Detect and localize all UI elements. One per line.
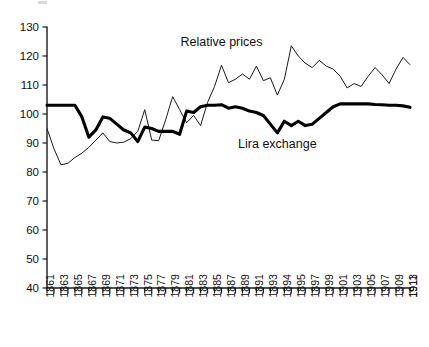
x-tick-label: 1907 [379, 274, 391, 298]
x-tick-label: 1913 [407, 274, 419, 298]
x-tick-label: 1863 [58, 274, 70, 298]
y-tick-label: 40 [26, 282, 39, 294]
x-tick-label: 1885 [211, 274, 223, 298]
line-chart: 405060708090100110120130 186118631865186… [0, 0, 429, 347]
y-tick-label: 110 [21, 79, 39, 91]
x-tick-label: 1894 [281, 274, 293, 298]
x-tick-label: 1889 [239, 274, 251, 298]
annotation-lira-exchange: Lira exchange [238, 137, 317, 151]
x-tick-label: 1893 [267, 274, 279, 298]
annotation-relative-prices: Relative prices [181, 35, 263, 49]
x-tick-label: 1887 [225, 274, 237, 298]
x-tick-label: 1999 [323, 274, 335, 298]
x-tick-label: 1897 [309, 274, 321, 298]
x-tick-label: 1909 [393, 274, 405, 298]
x-tick-label: 1881 [183, 274, 195, 298]
x-axis: 1861186318651867186918711873187518771879… [44, 274, 419, 298]
x-tick-label: 1891 [253, 274, 265, 298]
x-tick-label: 1895 [295, 274, 307, 298]
y-tick-label: 130 [20, 21, 39, 33]
y-tick-label: 120 [20, 50, 39, 62]
x-tick-label: 1883 [197, 274, 209, 298]
y-tick-label: 60 [26, 224, 39, 236]
chart-container: 405060708090100110120130 186118631865186… [0, 0, 429, 347]
x-tick-label: 1903 [351, 274, 363, 298]
x-tick-label: 1861 [44, 274, 56, 298]
y-tick-label: 80 [26, 166, 39, 178]
x-tick-label: 1869 [100, 274, 112, 298]
y-tick-label: 100 [20, 108, 39, 120]
x-tick-label: 1877 [155, 274, 167, 298]
x-tick-label: 1875 [142, 274, 154, 298]
y-tick-label: 50 [26, 253, 39, 265]
x-tick-label: 1879 [169, 274, 181, 298]
x-tick-label: 1871 [114, 274, 126, 298]
y-tick-label: 70 [26, 195, 39, 207]
x-tick-label: 1901 [337, 274, 349, 298]
x-tick-label: 1865 [72, 274, 84, 298]
y-tick-label: 90 [26, 137, 39, 149]
x-tick-label: 1867 [86, 274, 98, 298]
stray-mark-top [38, 1, 47, 4]
x-tick-label: 1905 [365, 274, 377, 298]
x-tick-label: 1873 [128, 274, 140, 298]
